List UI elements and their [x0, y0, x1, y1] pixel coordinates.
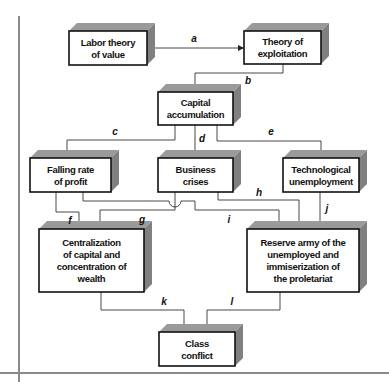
- node-text-line: unemployment: [289, 176, 354, 187]
- node-text-line: conflict: [181, 350, 214, 361]
- box-shadow-top: [247, 221, 367, 229]
- node-reserve-army: Reserve army of theunemployed andimmiser…: [247, 221, 367, 292]
- marxian-theory-flow-diagram: Labor theoryof valueTheory ofexploitatio…: [0, 0, 389, 382]
- node-text-line: of value: [91, 49, 125, 60]
- node-tech-unemployment: Technologicalunemployment: [283, 150, 367, 192]
- node-text-line: exploitation: [258, 48, 308, 59]
- box-shadow-top: [283, 150, 367, 158]
- node-text-line: the proletariat: [274, 273, 334, 284]
- box-shadow-top: [159, 324, 243, 332]
- node-centralization: Centralizationof capital andconcentratio…: [39, 221, 152, 292]
- box-shadow-top: [39, 221, 152, 229]
- node-text-line: Capital: [181, 97, 211, 108]
- box-shadow-top: [158, 84, 241, 92]
- node-text-line: concentration of: [57, 261, 128, 272]
- node-falling-rate: Falling rateof profit: [30, 150, 119, 192]
- node-text-line: Centralization: [62, 237, 121, 248]
- node-text-line: Falling rate: [47, 164, 94, 175]
- edge-label-d: d: [199, 133, 206, 144]
- node-text-line: crises: [183, 176, 209, 187]
- node-class-conflict: Classconflict: [159, 324, 243, 366]
- edge-label-b: b: [245, 75, 251, 86]
- box-shadow-top: [158, 150, 241, 158]
- box-shadow-top: [30, 150, 119, 158]
- node-text-line: wealth: [77, 273, 106, 284]
- node-business-crises: Businesscrises: [158, 150, 241, 192]
- node-text-line: Labor theory: [81, 37, 136, 48]
- node-capital-accumulation: Capitalaccumulation: [158, 84, 241, 125]
- edge-label-a: a: [191, 33, 197, 44]
- node-text-line: of capital and: [63, 249, 121, 260]
- box-shadow-side: [359, 221, 367, 292]
- node-text-line: accumulation: [167, 109, 225, 120]
- edge-label-h: h: [256, 187, 262, 198]
- node-text-line: unemployed and: [267, 249, 339, 260]
- box-shadow-top: [244, 23, 329, 31]
- node-labor-theory: Labor theoryof value: [69, 23, 155, 65]
- node-text-line: of profit: [54, 176, 88, 187]
- node-text-line: Class: [185, 338, 209, 349]
- node-exploitation: Theory ofexploitation: [244, 23, 329, 64]
- node-text-line: Technological: [291, 164, 350, 175]
- edge-label-e: e: [268, 126, 274, 137]
- node-text-line: Reserve army of the: [260, 237, 345, 248]
- edge-label-k: k: [161, 296, 167, 307]
- edge-label-l: l: [231, 296, 234, 307]
- node-text-line: Business: [176, 164, 216, 175]
- edge-label-i: i: [228, 214, 231, 225]
- box-shadow-side: [144, 221, 152, 292]
- node-text-line: immiserization of: [266, 261, 340, 272]
- edge-label-g: g: [138, 214, 145, 225]
- box-shadow-top: [69, 23, 155, 31]
- node-text-line: Theory of: [262, 36, 304, 47]
- edge-label-j: j: [324, 203, 329, 214]
- edge-label-c: c: [112, 126, 118, 137]
